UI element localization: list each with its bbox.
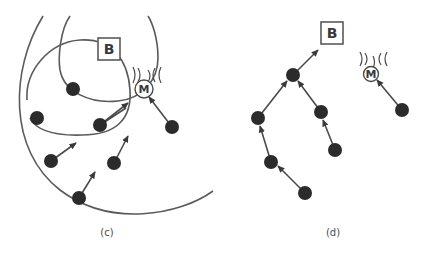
panel-c: B M (c) <box>19 16 213 238</box>
signal-wave-icon <box>385 52 387 66</box>
sensor-node <box>30 111 44 125</box>
sensor-node <box>165 120 179 134</box>
panel-d: B M (d) <box>251 22 409 238</box>
sensor-node <box>66 82 80 96</box>
panel-caption-d: (d) <box>326 227 340 238</box>
base-station-c: B <box>98 38 120 60</box>
sensor-node <box>251 111 265 125</box>
signal-wave-icon <box>365 53 367 65</box>
sensor-node <box>298 186 312 200</box>
mobile-label: M <box>366 68 377 81</box>
sensor-node <box>286 68 300 82</box>
sensor-node <box>44 154 58 168</box>
edge <box>258 81 287 118</box>
signal-wave-icon <box>360 52 362 66</box>
base-station-label: B <box>327 25 338 41</box>
mobile-station-d: M <box>360 52 387 82</box>
sensor-node <box>264 155 278 169</box>
sensor-node <box>314 105 328 119</box>
sensor-node <box>395 103 409 117</box>
sensor-node <box>107 156 121 170</box>
signal-wave-icon <box>159 67 161 83</box>
signal-wave-icon <box>379 53 381 65</box>
mobile-label: M <box>139 83 150 96</box>
signal-wave-icon <box>138 68 140 82</box>
sensor-node <box>328 143 342 157</box>
sensor-node <box>72 191 86 205</box>
base-station-label: B <box>104 41 115 57</box>
panel-caption-c: (c) <box>100 227 113 238</box>
base-station-d: B <box>321 22 343 44</box>
signal-wave-icon <box>148 70 150 82</box>
mobile-station-c: M <box>133 67 161 98</box>
signal-wave-icon <box>133 67 135 83</box>
sensor-node <box>93 118 107 132</box>
diagram-canvas: B M (c) B <box>0 0 428 253</box>
